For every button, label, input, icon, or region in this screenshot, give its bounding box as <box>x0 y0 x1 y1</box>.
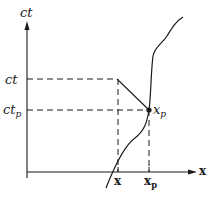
ct-label: ct <box>5 73 18 86</box>
xp-tick-label-sub: p <box>151 180 157 190</box>
spacetime-diagram <box>0 0 216 201</box>
event-point-label: xp <box>153 103 166 119</box>
y-axis-arrow-icon <box>25 21 30 30</box>
event-point-label-sub: p <box>160 109 166 119</box>
ctp-label: ctp <box>3 103 21 119</box>
ctp-label-main: ct <box>3 102 16 117</box>
event-point <box>146 107 151 112</box>
x-axis-arrow-icon <box>188 170 197 175</box>
x-tick-label: x <box>114 175 121 187</box>
xp-tick-label: xp <box>144 175 157 189</box>
x-axis-label: x <box>199 165 206 177</box>
ctp-label-sub: p <box>16 109 22 119</box>
light-signal-line <box>117 79 149 110</box>
y-axis-label: ct <box>20 6 33 19</box>
